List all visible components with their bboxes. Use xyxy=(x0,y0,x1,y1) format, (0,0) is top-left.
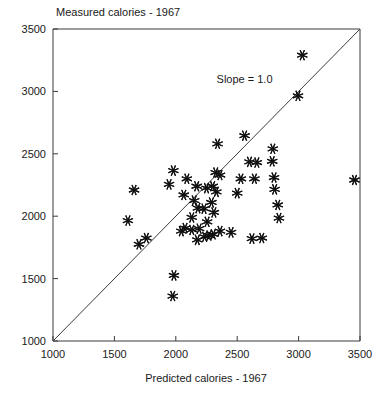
scatter-plot-figure: 100015002000250030003500 100015002000250… xyxy=(0,0,380,393)
data-point-marker xyxy=(249,174,259,184)
data-point-marker xyxy=(232,188,242,198)
x-tick-label-3000: 3000 xyxy=(286,348,310,360)
y-tick-label-3000: 3000 xyxy=(22,85,46,97)
data-point-marker xyxy=(267,156,277,166)
y-tick-label-1500: 1500 xyxy=(22,273,46,285)
slope-one-reference-line xyxy=(53,29,360,341)
x-tick-label-1500: 1500 xyxy=(102,348,126,360)
data-point-marker xyxy=(236,174,246,184)
data-point-marker xyxy=(247,234,257,244)
data-point-marker xyxy=(274,213,284,223)
data-point-marker xyxy=(252,157,262,167)
data-point-marker xyxy=(168,291,178,301)
y-tick-label-3500: 3500 xyxy=(22,23,46,35)
data-point-marker xyxy=(297,50,307,60)
data-point-marker xyxy=(192,235,202,245)
data-point-marker xyxy=(129,185,139,195)
data-point-marker xyxy=(192,181,202,191)
data-point-marker xyxy=(270,184,280,194)
data-point-marker xyxy=(239,131,249,141)
x-tick-label-2500: 2500 xyxy=(225,348,249,360)
data-point-marker xyxy=(273,200,283,210)
data-point-marker xyxy=(268,144,278,154)
data-point-marker xyxy=(257,233,267,243)
data-point-marker xyxy=(349,175,359,185)
y-axis-tick-marks xyxy=(53,29,58,341)
slope-annotation-label: Slope = 1.0 xyxy=(217,73,273,85)
data-point-marker xyxy=(226,227,236,237)
x-tick-label-2000: 2000 xyxy=(164,348,188,360)
data-point-marker xyxy=(169,270,179,280)
data-point-marker xyxy=(187,212,197,222)
data-point-marker xyxy=(215,226,225,236)
x-tick-label-1000: 1000 xyxy=(41,348,65,360)
x-tick-label-3500: 3500 xyxy=(348,348,372,360)
data-point-marker xyxy=(182,174,192,184)
data-point-marker xyxy=(123,215,133,225)
data-point-marker xyxy=(141,233,151,243)
data-point-marker xyxy=(209,207,219,217)
data-point-marker xyxy=(134,239,144,249)
data-point-marker xyxy=(168,166,178,176)
chart-canvas: 100015002000250030003500 100015002000250… xyxy=(0,0,380,393)
data-point-marker xyxy=(202,217,212,227)
y-tick-label-2500: 2500 xyxy=(22,148,46,160)
data-point-marker xyxy=(269,172,279,182)
x-axis-tick-labels: 100015002000250030003500 xyxy=(41,348,372,360)
data-point-marker xyxy=(206,197,216,207)
y-tick-label-2000: 2000 xyxy=(22,210,46,222)
data-point-marker xyxy=(164,179,174,189)
y-tick-label-1000: 1000 xyxy=(22,335,46,347)
plot-title: Measured calories - 1967 xyxy=(56,6,180,18)
data-point-markers xyxy=(123,50,360,301)
y-axis-tick-labels: 100015002000250030003500 xyxy=(22,23,46,347)
data-point-marker xyxy=(179,190,189,200)
data-point-marker xyxy=(212,139,222,149)
x-axis-tick-marks xyxy=(53,336,360,341)
data-point-marker xyxy=(244,157,254,167)
x-axis-title: Predicted calories - 1967 xyxy=(145,372,267,384)
